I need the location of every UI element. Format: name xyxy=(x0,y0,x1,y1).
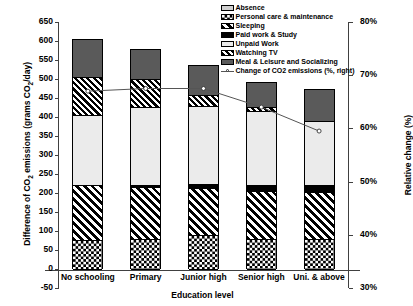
bar-segment[interactable] xyxy=(131,108,160,186)
legend: AbsencePersonal care & maintenanceSleepi… xyxy=(221,4,401,76)
legend-swatch-icon xyxy=(221,14,234,21)
bar-segment[interactable] xyxy=(305,193,334,239)
y-axis-left-tick-label: 450 xyxy=(13,92,53,102)
y-axis-left-tick-mark xyxy=(55,288,59,289)
y-axis-left-tick-label: 500 xyxy=(13,73,53,83)
legend-swatch-icon xyxy=(221,23,234,30)
y-axis-right-tick-mark xyxy=(349,182,353,183)
y-axis-left-tick-label: 200 xyxy=(13,187,53,197)
bar-stack[interactable] xyxy=(246,82,277,269)
bar-segment[interactable] xyxy=(131,188,160,239)
x-axis-tick-label: No schooling xyxy=(59,272,117,282)
bar-segment[interactable] xyxy=(189,236,218,270)
bar-segment[interactable] xyxy=(305,90,334,122)
x-axis-tick-label: Primary xyxy=(117,272,175,282)
bar-segment[interactable] xyxy=(73,78,102,116)
legend-swatch-icon xyxy=(221,50,234,57)
y-axis-left-tick-label: 150 xyxy=(13,206,53,216)
y-axis-right-title: Relative change (%) xyxy=(403,65,413,245)
y-axis-left-tick-label: -50 xyxy=(13,282,53,292)
bar-segment[interactable] xyxy=(73,40,102,78)
legend-item-label: Meal & Leisure and Socializing xyxy=(236,58,338,66)
y-axis-left-tick-label: 0 xyxy=(13,263,53,273)
bar-segment[interactable] xyxy=(247,112,276,185)
y-axis-left-tick-label: 50 xyxy=(13,244,53,254)
legend-swatch-icon xyxy=(221,5,234,12)
bar-segment[interactable] xyxy=(189,189,218,235)
legend-item[interactable]: Paid work & Study xyxy=(221,31,401,39)
bar-stack[interactable] xyxy=(130,49,161,269)
bar-segment[interactable] xyxy=(305,122,334,186)
y-axis-left-tick-label: 400 xyxy=(13,111,53,121)
legend-item-label: Sleeping xyxy=(236,22,265,30)
legend-item[interactable]: Watching TV xyxy=(221,49,401,57)
bar-stack[interactable] xyxy=(188,65,219,269)
x-axis-tick-label: Junior high xyxy=(175,272,233,282)
bar-segment[interactable] xyxy=(247,240,276,270)
x-axis-tick-label: Senior high xyxy=(232,272,290,282)
y-axis-right-tick-mark xyxy=(349,288,353,289)
legend-item[interactable]: Unpaid Work xyxy=(221,40,401,48)
y-axis-right-tick-label: 50% xyxy=(360,176,400,186)
legend-item[interactable]: Change of CO2 emissions (%, right) xyxy=(221,67,401,75)
y-axis-left-tick-label: 350 xyxy=(13,130,53,140)
legend-line-marker-icon xyxy=(221,68,234,75)
y-axis-right-tick-label: 40% xyxy=(360,229,400,239)
bar-segment[interactable] xyxy=(73,186,102,241)
bar-segment[interactable] xyxy=(189,107,218,185)
bar-segment[interactable] xyxy=(305,240,334,270)
y-axis-right-tick-label: 60% xyxy=(360,122,400,132)
x-axis-title: Education level xyxy=(60,290,345,300)
bar-segment[interactable] xyxy=(305,186,334,194)
legend-item-label: Unpaid Work xyxy=(236,40,279,48)
legend-swatch-icon xyxy=(221,59,234,66)
legend-item[interactable]: Sleeping xyxy=(221,22,401,30)
legend-swatch-icon xyxy=(221,32,234,39)
bar-segment[interactable] xyxy=(189,66,218,96)
y-axis-right-tick-mark xyxy=(349,235,353,236)
legend-item-label: Change of CO2 emissions (%, right) xyxy=(236,67,355,75)
legend-item-label: Paid work & Study xyxy=(236,31,297,39)
bar-stack[interactable] xyxy=(72,39,103,269)
legend-item-label: Absence xyxy=(236,4,265,12)
bar-segment[interactable] xyxy=(131,240,160,270)
y-axis-left-tick-label: 250 xyxy=(13,168,53,178)
bar-segment[interactable] xyxy=(189,96,218,107)
bar-segment[interactable] xyxy=(131,80,160,109)
bar-segment[interactable] xyxy=(73,241,102,270)
y-axis-left-tick-label: 600 xyxy=(13,35,53,45)
y-axis-left-tick-label: 100 xyxy=(13,225,53,235)
y-axis-left-tick-label: 650 xyxy=(13,16,53,26)
bar-segment[interactable] xyxy=(73,116,102,186)
legend-swatch-icon xyxy=(221,41,234,48)
y-axis-left-tick-label: 300 xyxy=(13,149,53,159)
y-axis-left-tick-label: 550 xyxy=(13,54,53,64)
legend-item[interactable]: Personal care & maintenance xyxy=(221,13,401,21)
bar-segment[interactable] xyxy=(247,192,276,240)
legend-item-label: Watching TV xyxy=(236,49,278,57)
x-axis-tick-label: Uni. & above xyxy=(290,272,348,282)
legend-item-label: Personal care & maintenance xyxy=(236,13,334,21)
bar-stack[interactable] xyxy=(304,89,335,269)
y-axis-right-tick-label: 30% xyxy=(360,282,400,292)
legend-item[interactable]: Meal & Leisure and Socializing xyxy=(221,58,401,66)
bar-segment[interactable] xyxy=(247,83,276,108)
bar-segment[interactable] xyxy=(131,50,160,80)
legend-item[interactable]: Absence xyxy=(221,4,401,12)
y-axis-right-tick-mark xyxy=(349,128,353,129)
